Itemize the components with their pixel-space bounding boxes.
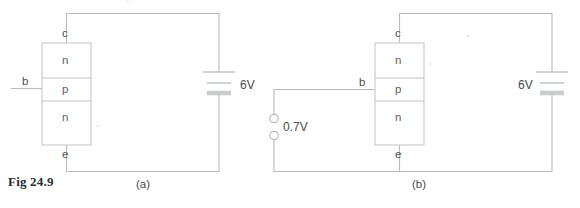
label-b-base-source-voltage: 0.7V	[283, 121, 308, 133]
terminal-b-source-top	[270, 114, 278, 122]
label-b-emitter: e	[395, 149, 401, 161]
figure-npn-transistor-circuits: p c b e n p n 6V (a) c b e n p n 0.7V 6V…	[0, 0, 580, 208]
circuit-diagram-canvas	[0, 0, 580, 208]
scan-speck	[429, 63, 431, 65]
label-a-layer-p: p	[62, 84, 68, 96]
label-b-layer-n-bottom: n	[395, 112, 401, 124]
label-b-collector: c	[395, 28, 401, 40]
label-a-battery-voltage: 6V	[240, 79, 255, 91]
wire-b-base	[274, 90, 375, 115]
label-b-layer-n-top: n	[395, 55, 401, 67]
top-clipped-text-artifact: p	[126, 0, 132, 2]
wire-a-emitter	[67, 95, 220, 172]
label-a-collector: c	[62, 28, 68, 40]
scan-speck	[97, 125, 99, 127]
subcaption-a: (a)	[136, 179, 150, 191]
label-a-base: b	[22, 76, 28, 88]
panel-a-circuit	[11, 14, 235, 172]
label-b-base: b	[359, 77, 365, 89]
label-a-emitter: e	[62, 149, 68, 161]
label-a-layer-n-bottom: n	[62, 112, 68, 124]
label-b-battery-voltage: 6V	[518, 79, 533, 91]
figure-caption: Fig 24.9	[8, 174, 54, 190]
terminal-b-source-bottom	[270, 131, 278, 139]
subcaption-b: (b)	[412, 179, 426, 191]
label-b-layer-p: p	[395, 84, 401, 96]
wire-b-emitter	[400, 95, 553, 172]
label-a-layer-n-top: n	[62, 55, 68, 67]
panel-b-circuit	[270, 14, 568, 172]
scan-speck	[467, 35, 469, 37]
